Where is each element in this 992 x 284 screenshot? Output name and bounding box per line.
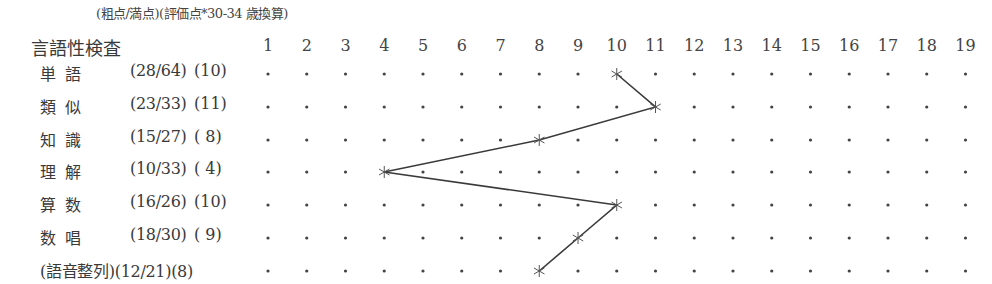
grid-dot <box>925 269 928 272</box>
grid-dot <box>383 105 386 108</box>
grid-dot <box>460 203 463 206</box>
grid-dot <box>886 138 889 141</box>
grid-dot <box>848 269 851 272</box>
asterisk-marker <box>612 68 622 80</box>
grid-dot <box>964 203 967 206</box>
grid-dot <box>499 72 502 75</box>
grid-dot <box>964 269 967 272</box>
grid-dot <box>576 72 579 75</box>
grid-dot <box>460 236 463 239</box>
grid-dot <box>421 236 424 239</box>
grid-dot <box>344 138 347 141</box>
grid-dot <box>615 170 618 173</box>
grid-dot <box>344 236 347 239</box>
grid-dot <box>383 269 386 272</box>
grid-dot <box>654 72 657 75</box>
grid-dot <box>615 138 618 141</box>
grid-dot <box>654 138 657 141</box>
grid-dot <box>421 269 424 272</box>
grid-dot <box>886 105 889 108</box>
grid-dot <box>266 105 269 108</box>
grid-dot <box>615 105 618 108</box>
grid-dot <box>266 203 269 206</box>
grid-dot <box>848 203 851 206</box>
grid-dot <box>770 170 773 173</box>
grid-dot <box>305 170 308 173</box>
grid-dot <box>770 105 773 108</box>
grid-dot <box>731 170 734 173</box>
grid-dot <box>848 170 851 173</box>
grid-dot <box>964 138 967 141</box>
grid-dot <box>576 170 579 173</box>
grid-dot <box>344 170 347 173</box>
grid-dot <box>305 236 308 239</box>
grid-dot <box>538 236 541 239</box>
grid-dot <box>576 203 579 206</box>
grid-dot <box>538 170 541 173</box>
grid-dot <box>886 72 889 75</box>
grid-dot <box>731 236 734 239</box>
grid-dot <box>421 105 424 108</box>
grid-dot <box>693 72 696 75</box>
grid-dot <box>925 236 928 239</box>
grid-dot <box>305 105 308 108</box>
grid-dot <box>615 236 618 239</box>
grid-dot <box>305 203 308 206</box>
grid-dot <box>809 72 812 75</box>
grid-dot <box>499 170 502 173</box>
grid-dot <box>809 138 812 141</box>
grid-dot <box>305 72 308 75</box>
grid-dot <box>266 269 269 272</box>
grid-dot <box>654 236 657 239</box>
grid-dot <box>886 203 889 206</box>
grid-dot <box>693 170 696 173</box>
grid-dot <box>266 236 269 239</box>
grid-dot <box>925 170 928 173</box>
grid-dot <box>693 138 696 141</box>
grid-dot <box>886 236 889 239</box>
grid-dot <box>266 138 269 141</box>
grid-dot <box>770 236 773 239</box>
grid-dot <box>964 170 967 173</box>
grid-dot <box>576 138 579 141</box>
grid-dot <box>499 203 502 206</box>
grid-dot <box>925 72 928 75</box>
grid-dot <box>383 138 386 141</box>
grid-dot <box>344 72 347 75</box>
grid-dot <box>964 236 967 239</box>
grid-dot <box>344 105 347 108</box>
grid-dot <box>925 203 928 206</box>
grid-dot <box>266 170 269 173</box>
grid-dot <box>693 269 696 272</box>
grid-dot <box>848 105 851 108</box>
grid-dot <box>809 236 812 239</box>
grid-dot <box>499 138 502 141</box>
grid-dot <box>693 203 696 206</box>
grid-dot <box>693 105 696 108</box>
grid-dot <box>848 236 851 239</box>
grid-dot <box>421 203 424 206</box>
asterisk-marker <box>573 232 583 244</box>
grid-dot <box>266 72 269 75</box>
grid-dot <box>964 72 967 75</box>
grid-dot <box>886 170 889 173</box>
grid-dot <box>344 203 347 206</box>
grid-dot <box>383 236 386 239</box>
grid-dot <box>731 105 734 108</box>
grid-dot <box>576 105 579 108</box>
grid-dot <box>305 269 308 272</box>
grid-dot <box>421 72 424 75</box>
grid-dot <box>499 236 502 239</box>
grid-dot <box>383 72 386 75</box>
grid-dot <box>615 269 618 272</box>
profile-chart <box>0 0 992 284</box>
grid-dot <box>731 72 734 75</box>
grid-dot <box>344 269 347 272</box>
grid-dot <box>499 269 502 272</box>
grid-dot <box>305 138 308 141</box>
grid-dot <box>770 138 773 141</box>
grid-dot <box>925 138 928 141</box>
grid-dot <box>383 203 386 206</box>
grid-dot <box>925 105 928 108</box>
asterisk-marker <box>650 101 660 113</box>
